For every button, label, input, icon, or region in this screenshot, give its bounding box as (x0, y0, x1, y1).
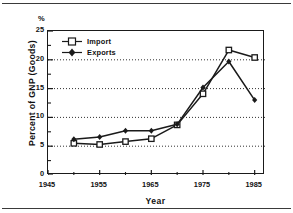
y-tick-label: 25 (26, 26, 44, 34)
legend-label-import: Import (87, 37, 111, 46)
legend-item-exports: Exports (62, 47, 116, 58)
data-series-layer (71, 47, 257, 147)
y-tick-label: 15 (26, 84, 44, 92)
y-tick-label: 5 (26, 141, 44, 149)
legend-item-import: Import (62, 36, 116, 47)
x-tick-label: 1955 (82, 180, 116, 189)
figure-container: % Percent of GNP (Goods) Year 0510152025… (0, 0, 293, 213)
series-exports (71, 59, 257, 143)
x-tick-label: 1965 (133, 180, 167, 189)
y-tick-label: 0 (26, 170, 44, 178)
bottom-border-rule (2, 208, 291, 209)
top-border-rule (2, 3, 291, 4)
x-axis-tick-marks (48, 170, 255, 175)
legend-label-exports: Exports (87, 48, 116, 57)
y-axis-tick-marks (48, 31, 53, 175)
open-square-marker-icon (62, 36, 82, 47)
x-axis-title: Year (47, 196, 264, 206)
x-tick-label: 1975 (185, 180, 219, 189)
x-tick-label: 1985 (237, 180, 271, 189)
y-tick-label: 20 (26, 55, 44, 63)
y-tick-label: 10 (26, 112, 44, 120)
gridlines (48, 60, 265, 146)
filled-diamond-marker-icon (62, 47, 82, 58)
chart-legend: Import Exports (62, 36, 116, 58)
x-tick-label: 1945 (30, 180, 64, 189)
